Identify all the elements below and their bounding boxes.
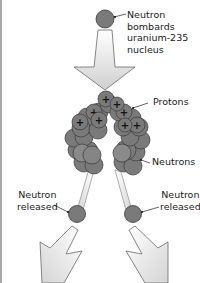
svg-text:+: + (113, 99, 121, 110)
released-left-label: Neutron released (17, 189, 58, 212)
neutrons-leader (141, 160, 150, 163)
right-released-arrow (115, 170, 168, 283)
label-line: nucleus (127, 44, 188, 56)
label-line: Neutron (127, 9, 188, 21)
label-line: released (17, 201, 58, 213)
incoming-neutron-label: Neutron bombards uranium-235 nucleus (127, 9, 188, 55)
released-neutron-right (125, 206, 160, 223)
incoming-arrow (74, 30, 135, 90)
protons-label: Protons (153, 96, 189, 108)
label-line: Neutron (160, 189, 200, 201)
released-neutron-left (54, 205, 86, 223)
svg-text:+: + (95, 115, 103, 126)
svg-text:+: + (76, 117, 84, 128)
fission-diagram: + + + + + + + + (0, 0, 200, 283)
left-released-arrow (40, 170, 94, 283)
neutrons-label: Neutrons (152, 156, 195, 168)
svg-text:+: + (133, 120, 141, 131)
released-right-label: Neutron released (160, 189, 200, 212)
svg-text:+: + (121, 120, 129, 131)
label-line: released (160, 201, 200, 213)
incoming-neutron (96, 10, 126, 28)
protons-leader (133, 103, 148, 108)
svg-text:+: + (102, 94, 110, 105)
label-line: Neutron (17, 189, 58, 201)
label-line: bombards (127, 21, 188, 33)
label-line: uranium-235 (127, 32, 188, 44)
